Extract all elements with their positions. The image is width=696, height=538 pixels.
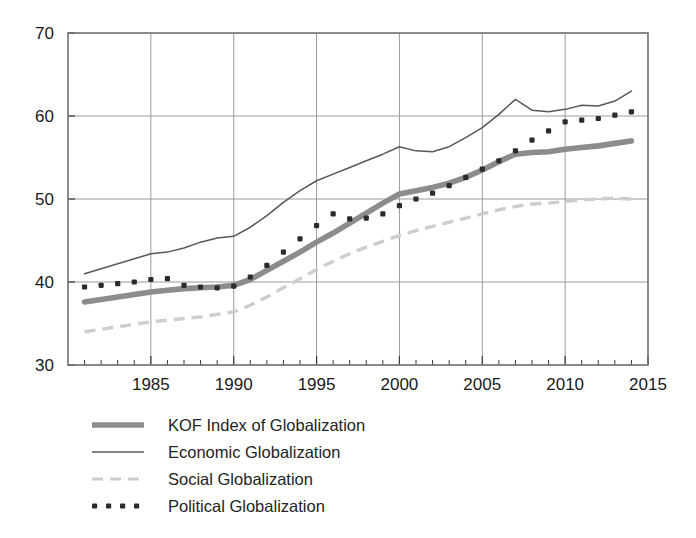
data-point-marker <box>181 283 186 288</box>
data-point-marker <box>165 276 170 281</box>
data-point-marker <box>629 109 634 114</box>
data-point-marker <box>430 191 435 196</box>
data-point-marker <box>99 283 104 288</box>
legend-label: Economic Globalization <box>168 443 340 461</box>
legend-swatch-dotted <box>134 503 139 508</box>
x-tick-label: 1995 <box>298 375 336 394</box>
data-point-marker <box>115 281 120 286</box>
data-point-marker <box>314 223 319 228</box>
data-point-marker <box>297 236 302 241</box>
y-tick-label: 30 <box>35 356 54 375</box>
x-tick-label: 2015 <box>629 375 667 394</box>
data-point-marker <box>513 148 518 153</box>
chart-canvas: 7060504030 1985199019952000200520102015 … <box>0 0 696 538</box>
data-point-marker <box>264 263 269 268</box>
data-point-marker <box>596 116 601 121</box>
data-point-marker <box>463 175 468 180</box>
data-point-marker <box>215 285 220 290</box>
legend-swatch-dotted <box>92 503 97 508</box>
legend-label: KOF Index of Globalization <box>168 416 365 434</box>
data-point-marker <box>563 119 568 124</box>
data-point-marker <box>347 216 352 221</box>
data-point-marker <box>480 167 485 172</box>
data-point-marker <box>529 137 534 142</box>
legend-label: Political Globalization <box>168 497 325 515</box>
x-tick-label: 2000 <box>381 375 419 394</box>
data-point-marker <box>331 211 336 216</box>
data-point-marker <box>82 284 87 289</box>
legend-label: Social Globalization <box>168 470 313 488</box>
x-tick-label: 2005 <box>463 375 501 394</box>
chart-background <box>0 0 696 538</box>
data-point-marker <box>546 128 551 133</box>
data-point-marker <box>579 118 584 123</box>
data-point-marker <box>380 211 385 216</box>
data-point-marker <box>281 250 286 255</box>
y-tick-label: 60 <box>35 107 54 126</box>
data-point-marker <box>496 158 501 163</box>
x-tick-label: 2010 <box>546 375 584 394</box>
data-point-marker <box>148 277 153 282</box>
x-tick-label: 1990 <box>215 375 253 394</box>
y-tick-label: 50 <box>35 190 54 209</box>
y-tick-label: 70 <box>35 24 54 43</box>
data-point-marker <box>132 279 137 284</box>
data-point-marker <box>248 274 253 279</box>
data-point-marker <box>413 196 418 201</box>
data-point-marker <box>198 284 203 289</box>
legend-swatch-dotted <box>120 503 125 508</box>
y-tick-label: 40 <box>35 273 54 292</box>
data-point-marker <box>612 113 617 118</box>
data-point-marker <box>231 284 236 289</box>
x-tick-label: 1985 <box>132 375 170 394</box>
data-point-marker <box>397 203 402 208</box>
data-point-marker <box>364 215 369 220</box>
globalization-index-chart: 7060504030 1985199019952000200520102015 … <box>0 0 696 538</box>
legend-swatch-dotted <box>106 503 111 508</box>
data-point-marker <box>447 183 452 188</box>
